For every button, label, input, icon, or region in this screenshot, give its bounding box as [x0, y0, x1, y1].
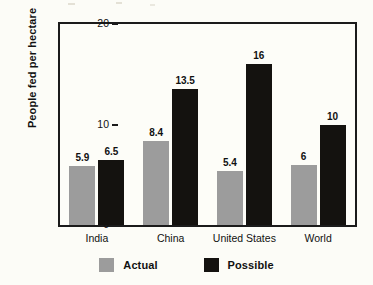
bar-value-label: 6.5	[91, 146, 131, 157]
y-tick-mark	[112, 23, 118, 25]
y-axis-title: People fed per hectare	[26, 0, 38, 156]
bar-chart-figure: People fed per hectare 01020 5.96.58.413…	[0, 0, 373, 285]
bar-value-label: 5.4	[210, 157, 250, 168]
y-tick-label: 20	[78, 17, 109, 29]
bar-india-actual	[69, 166, 95, 225]
bar-value-label: 16	[239, 50, 279, 61]
bar-india-possible	[98, 160, 124, 225]
bar-value-label: 13.5	[165, 75, 205, 86]
y-tick-mark	[112, 124, 118, 126]
legend-label-possible: Possible	[228, 259, 274, 271]
x-axis-label-world: World	[269, 232, 367, 244]
bar-value-label: 8.4	[136, 127, 176, 138]
legend-swatch-actual	[99, 258, 114, 272]
bar-value-label: 6	[284, 151, 324, 162]
bar-world-actual	[291, 165, 317, 225]
bar-united-states-possible	[246, 64, 272, 225]
legend-item-possible: Possible	[204, 258, 274, 272]
legend-swatch-possible	[204, 258, 219, 272]
legend-item-actual: Actual	[99, 258, 157, 272]
chart-legend: ActualPossible	[0, 258, 373, 272]
y-tick-label: 10	[78, 118, 109, 130]
bar-world-possible	[320, 125, 346, 226]
bar-china-possible	[172, 89, 198, 225]
scan-artifact	[68, 3, 75, 5]
scan-artifact	[150, 4, 155, 6]
scan-artifact	[116, 2, 122, 4]
bar-china-actual	[143, 141, 169, 225]
plot-area: 01020 5.96.58.413.55.416610	[58, 22, 357, 227]
bar-united-states-actual	[217, 171, 243, 225]
legend-label-actual: Actual	[123, 259, 157, 271]
bar-value-label: 10	[313, 111, 353, 122]
